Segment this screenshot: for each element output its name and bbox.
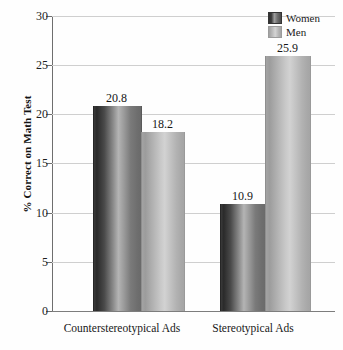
x-axis-baseline bbox=[52, 311, 335, 312]
y-tick-label-5: 5 bbox=[8, 255, 48, 270]
bar-women-counterstereotypical[interactable] bbox=[93, 106, 142, 311]
legend-item-men[interactable]: Men bbox=[268, 26, 320, 37]
bar-women-stereotypical[interactable] bbox=[220, 204, 266, 311]
legend-label-men: Men bbox=[286, 26, 306, 38]
y-tick-label-25: 25 bbox=[8, 58, 48, 73]
legend: Women Men bbox=[268, 12, 320, 37]
legend-swatch-men-icon bbox=[268, 26, 282, 38]
bar-value-women-counterstereotypical: 20.8 bbox=[91, 91, 142, 106]
bar-value-women-stereotypical: 10.9 bbox=[217, 189, 268, 204]
y-tick-label-30: 30 bbox=[8, 9, 48, 24]
legend-item-women[interactable]: Women bbox=[268, 12, 320, 23]
y-tick-label-15: 15 bbox=[8, 156, 48, 171]
x-axis-label-counterstereotypical: Counterstereotypical Ads bbox=[60, 322, 184, 334]
legend-label-women: Women bbox=[286, 12, 320, 24]
y-tick-label-10: 10 bbox=[8, 206, 48, 221]
y-tick-label-20: 20 bbox=[8, 107, 48, 122]
x-axis-label-stereotypical: Stereotypical Ads bbox=[198, 322, 308, 334]
bar-men-counterstereotypical[interactable] bbox=[141, 132, 185, 311]
y-tick-label-0: 0 bbox=[8, 304, 48, 319]
bar-chart: % Correct on Math Test 30 25 20 15 10 5 … bbox=[0, 0, 343, 350]
bar-value-men-counterstereotypical: 18.2 bbox=[137, 117, 188, 132]
legend-swatch-women-icon bbox=[268, 12, 282, 24]
bar-men-stereotypical[interactable] bbox=[265, 56, 311, 311]
bar-value-men-stereotypical: 25.9 bbox=[262, 41, 313, 56]
plot-area: 20.8 18.2 10.9 25.9 bbox=[52, 16, 335, 311]
